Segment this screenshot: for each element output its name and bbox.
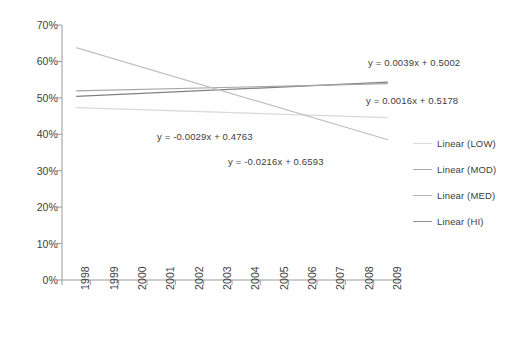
chart-container: 0%10%20%30%40%50%60%70% 1998199920002001…	[0, 0, 526, 340]
legend-item-linearhi[interactable]: Linear (HI)	[413, 208, 525, 234]
legend-line-swatch	[413, 221, 432, 222]
equation-label: y = -0.0029x + 0.4763	[157, 131, 253, 142]
legend-item-linearmed[interactable]: Linear (MED)	[413, 182, 525, 208]
chart-legend: Linear (LOW)Linear (MOD)Linear (MED)Line…	[413, 130, 525, 234]
x-tick-label: 2007	[335, 266, 346, 290]
legend-item-linearmod[interactable]: Linear (MOD)	[413, 156, 525, 182]
legend-item-label: Linear (MED)	[437, 190, 495, 201]
x-tick-label: 2000	[137, 266, 148, 290]
x-tick-label: 2003	[222, 266, 233, 290]
x-tick-label: 2008	[364, 266, 375, 290]
legend-line-swatch	[413, 143, 432, 144]
x-tick-label: 1999	[109, 266, 120, 290]
legend-item-label: Linear (LOW)	[437, 138, 496, 149]
equation-label: y = 0.0039x + 0.5002	[368, 57, 460, 68]
x-tick-label: 2001	[165, 266, 176, 290]
equation-label: y = 0.0016x + 0.5178	[366, 95, 458, 106]
x-tick-label: 2009	[392, 266, 403, 290]
legend-line-swatch	[413, 169, 432, 170]
legend-item-linearlow[interactable]: Linear (LOW)	[413, 130, 525, 156]
x-tick-label: 1998	[80, 266, 91, 290]
x-tick-label: 2004	[250, 266, 261, 290]
legend-item-label: Linear (HI)	[437, 216, 484, 227]
legend-item-label: Linear (MOD)	[437, 164, 496, 175]
x-tick-label: 2002	[194, 266, 205, 290]
equation-label: y = -0.0216x + 0.6593	[228, 156, 324, 167]
x-tick-label: 2006	[307, 266, 318, 290]
legend-line-swatch	[413, 195, 432, 196]
x-tick-label: 2005	[279, 266, 290, 290]
